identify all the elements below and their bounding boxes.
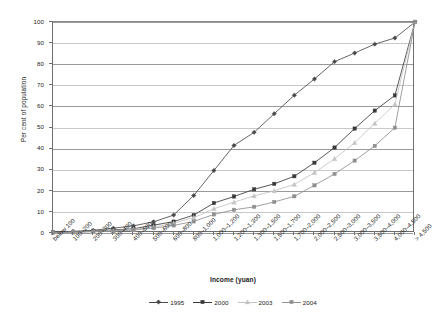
data-point-marker bbox=[192, 220, 195, 223]
y-axis-tick-label: 70 bbox=[18, 81, 44, 88]
legend-item-2003[interactable]: 2003 bbox=[238, 298, 273, 306]
legend-swatch-icon bbox=[149, 298, 168, 306]
chart-legend: 1995200020032004 bbox=[52, 298, 414, 306]
data-point-marker bbox=[232, 195, 235, 198]
data-point-marker bbox=[252, 205, 255, 208]
y-axis-tick-label: 90 bbox=[18, 39, 44, 46]
data-point-marker bbox=[313, 161, 316, 164]
y-axis-tick-label: 80 bbox=[18, 60, 44, 67]
data-point-marker bbox=[273, 182, 276, 185]
data-point-marker bbox=[373, 144, 376, 147]
legend-label: 2004 bbox=[303, 299, 317, 306]
y-axis-tick-label: 30 bbox=[18, 165, 44, 172]
data-point-marker bbox=[373, 109, 376, 112]
legend-label: 2003 bbox=[259, 299, 273, 306]
y-axis-tick-label: 100 bbox=[18, 18, 44, 25]
data-point-marker bbox=[152, 226, 155, 229]
data-point-marker bbox=[313, 184, 316, 187]
data-point-marker bbox=[352, 51, 356, 55]
data-point-marker bbox=[293, 195, 296, 198]
legend-swatch-icon bbox=[282, 298, 301, 306]
y-axis-tick-label: 10 bbox=[18, 208, 44, 215]
data-point-marker bbox=[201, 300, 204, 303]
data-point-marker bbox=[393, 102, 398, 106]
legend-swatch-icon bbox=[193, 298, 212, 306]
y-axis-tick-label: 20 bbox=[18, 187, 44, 194]
data-point-marker bbox=[156, 300, 160, 304]
x-axis-tick-label: > 4,500 bbox=[413, 222, 433, 242]
data-point-marker bbox=[333, 172, 336, 175]
data-point-marker bbox=[353, 127, 356, 130]
data-point-marker bbox=[292, 182, 297, 186]
data-point-marker bbox=[393, 126, 396, 129]
legend-item-2000[interactable]: 2000 bbox=[193, 298, 228, 306]
data-point-marker bbox=[252, 188, 255, 191]
y-axis-tick-label: 60 bbox=[18, 102, 44, 109]
data-point-marker bbox=[333, 146, 336, 149]
data-point-marker bbox=[413, 20, 416, 23]
data-point-marker bbox=[212, 201, 215, 204]
chart-figure: Per cent of population 01020304050607080… bbox=[0, 0, 444, 321]
data-point-marker bbox=[312, 170, 317, 174]
legend-label: 2000 bbox=[214, 299, 228, 306]
data-point-marker bbox=[289, 300, 292, 303]
data-point-marker bbox=[293, 175, 296, 178]
series-lines bbox=[53, 22, 415, 233]
y-axis-tick-label: 0 bbox=[18, 229, 44, 236]
data-point-marker bbox=[373, 42, 377, 46]
legend-label: 1995 bbox=[170, 299, 184, 306]
x-axis-title: Income (yuan) bbox=[52, 276, 414, 283]
series-2003 bbox=[51, 20, 418, 235]
data-point-marker bbox=[393, 94, 396, 97]
data-point-marker bbox=[273, 200, 276, 203]
plot-area bbox=[52, 21, 414, 232]
y-axis-tick-label: 50 bbox=[18, 123, 44, 130]
legend-item-2004[interactable]: 2004 bbox=[282, 298, 317, 306]
data-point-marker bbox=[353, 159, 356, 162]
data-point-marker bbox=[245, 300, 250, 304]
legend-swatch-icon bbox=[238, 298, 257, 306]
legend-item-1995[interactable]: 1995 bbox=[149, 298, 184, 306]
y-axis-tick-label: 40 bbox=[18, 144, 44, 151]
